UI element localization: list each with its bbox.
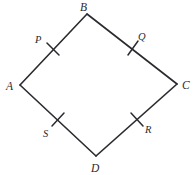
geometry-figure: A B C D P Q R S [0, 0, 196, 175]
vertex-labels: A B C D [5, 1, 190, 174]
midpoint-label-r: R [144, 124, 152, 135]
quadrilateral-diagram-svg: A B C D P Q R S [0, 0, 196, 175]
vertex-label-c: C [182, 79, 190, 91]
vertex-label-d: D [90, 162, 100, 174]
midpoint-label-q: Q [138, 31, 146, 42]
midpoint-label-p: P [34, 34, 42, 45]
midpoint-label-s: S [43, 128, 49, 139]
vertex-label-b: B [80, 1, 87, 13]
vertex-label-a: A [5, 80, 14, 92]
midpoint-tick-marks [47, 41, 143, 126]
